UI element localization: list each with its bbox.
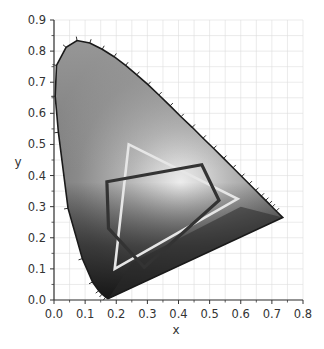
x-tick-label: 0.3 bbox=[138, 307, 156, 321]
x-tick-label: 0.5 bbox=[200, 307, 218, 321]
x-tick-label: 0.0 bbox=[45, 307, 63, 321]
wavelength-tick bbox=[63, 45, 66, 48]
wavelength-tick bbox=[214, 146, 217, 149]
x-axis-label: x bbox=[172, 323, 179, 337]
spectral-locus-fill bbox=[51, 37, 283, 301]
x-tick-label: 0.2 bbox=[107, 307, 125, 321]
y-tick-label: 0.6 bbox=[28, 106, 46, 120]
y-tick-label: 0.2 bbox=[28, 231, 46, 245]
wavelength-tick bbox=[89, 282, 93, 284]
y-tick-label: 0.4 bbox=[28, 169, 46, 183]
x-tick-label: 0.8 bbox=[294, 307, 312, 321]
y-tick-label: 0.8 bbox=[28, 44, 46, 58]
wavelength-tick bbox=[181, 114, 184, 117]
wavelength-tick bbox=[269, 201, 272, 204]
wavelength-tick bbox=[203, 135, 206, 138]
y-tick-label: 0.9 bbox=[28, 13, 46, 27]
y-tick-label: 0.1 bbox=[28, 262, 46, 276]
wavelength-tick bbox=[126, 62, 128, 65]
y-axis-label: y bbox=[14, 155, 21, 169]
wavelength-tick bbox=[233, 165, 236, 168]
wavelength-tick bbox=[276, 208, 279, 211]
wavelength-tick bbox=[261, 193, 264, 196]
wavelength-tick bbox=[90, 39, 91, 43]
x-tick-label: 0.6 bbox=[232, 307, 250, 321]
wavelength-tick bbox=[102, 46, 104, 49]
wavelength-tick bbox=[159, 92, 162, 95]
wavelength-tick bbox=[96, 291, 99, 293]
x-tick-label: 0.1 bbox=[76, 307, 94, 321]
y-tick-label: 0.3 bbox=[28, 200, 46, 214]
wavelength-tick bbox=[192, 124, 195, 127]
wavelength-tick bbox=[79, 259, 83, 260]
x-tick-label: 0.7 bbox=[263, 307, 281, 321]
chromaticity-chart: 0.00.10.20.30.40.50.60.70.80.00.10.20.30… bbox=[0, 0, 324, 349]
wavelength-tick bbox=[170, 103, 173, 106]
y-tick-label: 0.0 bbox=[28, 293, 46, 307]
y-tick-label: 0.5 bbox=[28, 137, 46, 151]
wavelength-tick bbox=[266, 198, 269, 201]
y-tick-label: 0.7 bbox=[28, 75, 46, 89]
wavelength-tick bbox=[242, 174, 245, 177]
wavelength-tick bbox=[137, 72, 140, 75]
wavelength-tick bbox=[249, 181, 252, 184]
x-tick-label: 0.4 bbox=[169, 307, 187, 321]
